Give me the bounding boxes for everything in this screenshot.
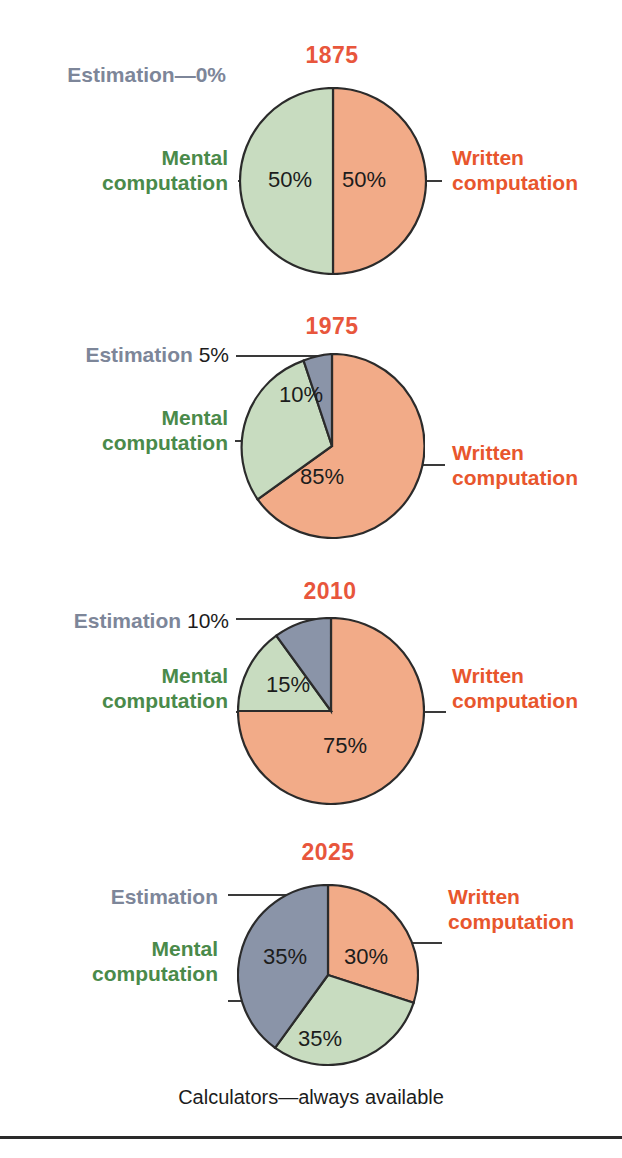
slice-label-written-2025: 30% <box>344 944 388 970</box>
callout-estimation-text-1875: Estimation—0% <box>67 63 226 86</box>
callout-written-line2-2025: computation <box>448 909 574 934</box>
callout-mental-line2-2010: computation <box>0 688 228 713</box>
callout-mental-line1-1975: Mental <box>0 405 228 430</box>
callout-written-1975: Written computation <box>452 440 578 490</box>
callout-estimation-2010: Estimation 10% <box>0 608 229 633</box>
callout-estimation-text-2025: Estimation <box>111 885 218 908</box>
year-title-1875: 1875 <box>262 42 402 69</box>
callout-written-2025: Written computation <box>448 884 574 934</box>
slice-label-mental-1875: 50% <box>268 167 312 193</box>
year-title-2025: 2025 <box>258 839 398 866</box>
callout-estimation-value-2010: 10% <box>187 609 229 632</box>
callout-written-line1-2010: Written <box>452 663 578 688</box>
callout-written-line2-2010: computation <box>452 688 578 713</box>
callout-written-line2-1975: computation <box>452 465 578 490</box>
callout-mental-2025: Mental computation <box>0 936 218 986</box>
bottom-divider <box>0 1136 622 1139</box>
callout-written-line1-2025: Written <box>448 884 574 909</box>
callout-mental-line1-1875: Mental <box>0 145 228 170</box>
pie-chart-figure: 1875 Estimation—0% Mental computation Wr… <box>0 0 622 1158</box>
callout-written-line2-1875: computation <box>452 170 578 195</box>
slice-label-mental-1975: 10% <box>279 382 323 408</box>
callout-mental-line1-2010: Mental <box>0 663 228 688</box>
callout-written-2010: Written computation <box>452 663 578 713</box>
callout-mental-1975: Mental computation <box>0 405 228 455</box>
callout-estimation-text-2010: Estimation <box>74 609 181 632</box>
pie-svg-2010 <box>237 617 425 805</box>
pie-chart-1975 <box>239 353 425 539</box>
callout-estimation-1875: Estimation—0% <box>0 62 226 87</box>
callout-estimation-1975: Estimation 5% <box>0 342 229 367</box>
callout-written-line1-1875: Written <box>452 145 578 170</box>
callout-mental-1875: Mental computation <box>0 145 228 195</box>
callout-estimation-2025: Estimation <box>0 884 218 909</box>
slice-label-written-1875: 50% <box>342 167 386 193</box>
pie-svg-1975 <box>239 353 425 539</box>
callout-mental-line1-2025: Mental <box>0 936 218 961</box>
callout-mental-line2-2025: computation <box>0 961 218 986</box>
callout-estimation-value-1975: 5% <box>199 343 229 366</box>
callout-written-1875: Written computation <box>452 145 578 195</box>
slice-label-written-1975: 85% <box>300 464 344 490</box>
slice-label-written-2010: 75% <box>323 733 367 759</box>
callout-estimation-text-1975: Estimation <box>85 343 192 366</box>
slice-label-mental-2010: 15% <box>266 672 310 698</box>
slice-label-mental-2025: 35% <box>298 1026 342 1052</box>
callout-mental-2010: Mental computation <box>0 663 228 713</box>
callout-mental-line2-1875: computation <box>0 170 228 195</box>
callout-written-line1-1975: Written <box>452 440 578 465</box>
figure-caption: Calculators—always available <box>0 1086 622 1109</box>
year-title-1975: 1975 <box>262 313 402 340</box>
slice-label-estimation-2025: 35% <box>263 944 307 970</box>
year-title-2010: 2010 <box>260 578 400 605</box>
callout-mental-line2-1975: computation <box>0 430 228 455</box>
pie-chart-2010 <box>237 617 425 805</box>
